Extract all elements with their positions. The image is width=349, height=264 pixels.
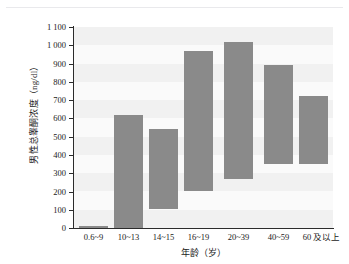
y-axis-tick (69, 210, 74, 211)
y-axis-tick-label: 500 (53, 133, 66, 142)
y-axis-tick (69, 155, 74, 156)
y-axis-tick-label: 100 (53, 206, 66, 215)
y-axis-tick (69, 45, 74, 46)
bar-10-to-13 (114, 115, 143, 228)
y-axis-tick-label: 600 (53, 114, 66, 123)
bar-16-to-19 (184, 51, 213, 192)
x-axis-tick-label: 60 及以上 (294, 233, 349, 242)
top-hairline (6, 7, 343, 8)
bar-60-and-above (299, 96, 328, 165)
y-axis-tick (69, 228, 74, 229)
y-axis-tick-label: 800 (53, 78, 66, 87)
chart-figure: 男性总睾酮浓度（ng/dl） 0 100 200 300 400 500 600… (0, 0, 349, 264)
bar-40-to-59 (264, 65, 293, 165)
y-axis-tick-label: 300 (53, 169, 66, 178)
x-axis-line (73, 228, 334, 229)
y-axis-tick-label: 400 (53, 151, 66, 160)
bar-20-to-39 (224, 42, 253, 179)
x-axis-tick-label: 20~39 (218, 233, 259, 242)
y-axis-tick-label: 0 (62, 224, 66, 233)
x-axis-tick-label: 16~19 (178, 233, 219, 242)
y-axis-tick-label: 700 (53, 96, 66, 105)
y-axis-tick (69, 137, 74, 138)
y-axis-tick (69, 100, 74, 101)
y-axis-tick (69, 192, 74, 193)
y-axis-tick (69, 82, 74, 83)
y-axis-tick (69, 27, 74, 28)
background-band (74, 210, 333, 228)
y-axis-tick (69, 118, 74, 119)
y-axis-line (73, 26, 74, 229)
y-axis-tick-label: 1 000 (47, 41, 66, 50)
y-axis-tick-label: 900 (53, 60, 66, 69)
x-axis-title: 年龄（岁） (74, 246, 333, 259)
background-band (74, 27, 333, 45)
y-axis-tick (69, 64, 74, 65)
y-axis-tick-label: 1 100 (47, 23, 66, 32)
y-axis-tick-label: 200 (53, 188, 66, 197)
bar-0-6-to-9 (79, 226, 108, 228)
y-axis-title: 男性总睾酮浓度（ng/dl） (27, 23, 40, 203)
y-axis-tick (69, 173, 74, 174)
bar-14-to-15 (149, 129, 178, 209)
x-axis-tick-label: 40~59 (258, 233, 299, 242)
